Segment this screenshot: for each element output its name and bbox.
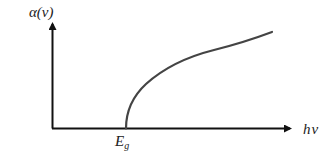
chart-canvas	[0, 0, 336, 156]
band-gap-label: Eg	[115, 134, 129, 151]
band-gap-symbol: E	[115, 133, 124, 149]
y-axis-label: α(ν)	[29, 5, 54, 20]
band-gap-subscript: g	[124, 140, 129, 151]
x-axis-label: hν	[303, 122, 319, 137]
absorption-curve	[126, 32, 272, 129]
